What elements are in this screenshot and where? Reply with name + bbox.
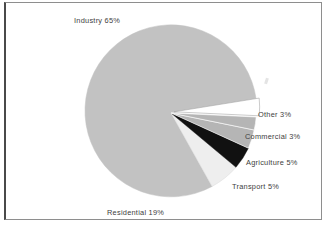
pie-label-agriculture: Agriculture 5% bbox=[246, 158, 298, 167]
pie-label-transport: Transport 5% bbox=[232, 182, 279, 191]
pie-label-commercial: Commercial 3% bbox=[245, 132, 300, 141]
chart-page: Industry 65% Other 3% Commercial 3% Agri… bbox=[0, 0, 334, 233]
pie-label-other: Other 3% bbox=[258, 110, 291, 119]
pie-chart: Industry 65% Other 3% Commercial 3% Agri… bbox=[0, 0, 334, 233]
pie-label-industry: Industry 65% bbox=[74, 16, 120, 25]
pie-label-residential: Residential 19% bbox=[107, 208, 164, 217]
